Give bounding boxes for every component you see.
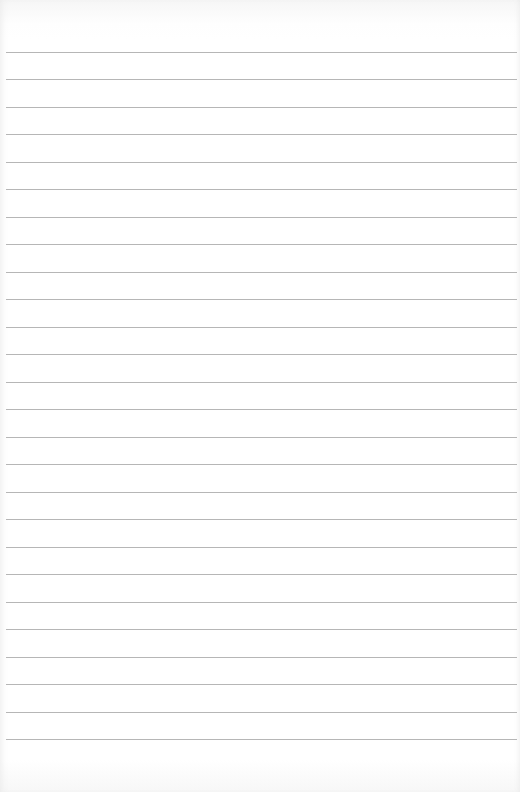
ruled-line xyxy=(6,409,517,410)
ruled-line xyxy=(6,162,517,163)
ruled-line xyxy=(6,602,517,603)
ruled-line xyxy=(6,574,517,575)
ruled-line xyxy=(6,547,517,548)
ruled-line xyxy=(6,107,517,108)
lined-paper xyxy=(0,0,520,792)
ruled-line xyxy=(6,272,517,273)
ruled-line xyxy=(6,492,517,493)
ruled-line xyxy=(6,629,517,630)
ruled-line xyxy=(6,712,517,713)
ruled-line xyxy=(6,134,517,135)
ruled-line xyxy=(6,52,517,53)
ruled-line xyxy=(6,437,517,438)
ruled-line xyxy=(6,657,517,658)
ruled-line xyxy=(6,519,517,520)
ruled-line xyxy=(6,327,517,328)
ruled-line xyxy=(6,354,517,355)
ruled-line xyxy=(6,79,517,80)
ruled-line xyxy=(6,464,517,465)
ruled-line xyxy=(6,217,517,218)
ruled-line xyxy=(6,382,517,383)
ruled-line xyxy=(6,684,517,685)
ruled-line xyxy=(6,244,517,245)
ruled-line xyxy=(6,299,517,300)
ruled-line xyxy=(6,739,517,740)
ruled-line xyxy=(6,189,517,190)
